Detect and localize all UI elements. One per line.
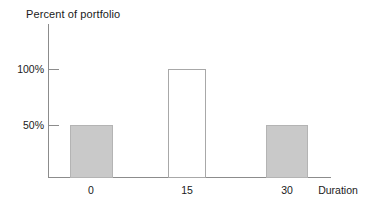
bar-chart: Percent of portfolio 100% 50% 0 15 30 Du…	[0, 0, 368, 205]
bar-30	[266, 125, 308, 178]
y-axis-title: Percent of portfolio	[26, 8, 120, 20]
x-tick-label-30: 30	[281, 184, 293, 196]
y-tick-mark-50	[49, 125, 59, 126]
y-tick-mark-100	[49, 69, 59, 70]
bar-15	[168, 69, 206, 178]
y-tick-label-50: 50%	[23, 119, 44, 131]
y-axis-line	[48, 24, 49, 178]
y-tick-label-100: 100%	[17, 63, 44, 75]
x-axis-title: Duration	[318, 184, 358, 196]
bar-0	[70, 125, 113, 178]
x-tick-label-0: 0	[88, 184, 94, 196]
x-tick-label-15: 15	[181, 184, 193, 196]
